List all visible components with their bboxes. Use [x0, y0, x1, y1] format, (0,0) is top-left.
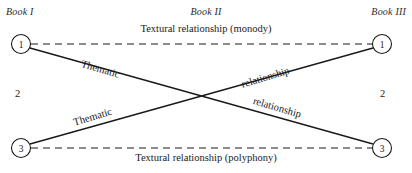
- side-number-right: 2: [380, 88, 385, 99]
- node-top-left-label: 1: [19, 40, 24, 50]
- side-number-left: 2: [15, 88, 20, 99]
- edge-label-textural-polyphony: Textural relationship (polyphony): [0, 152, 412, 163]
- node-top-left[interactable]: 1: [12, 35, 31, 54]
- column-header-book-3: Book III: [0, 6, 406, 17]
- node-top-right-label: 1: [380, 40, 385, 50]
- node-top-right[interactable]: 1: [373, 35, 392, 54]
- edge-label-textural-monody: Textural relationship (monody): [0, 23, 412, 34]
- diagram-canvas: 1 1 3 3 Book I Book II Book III Textural…: [0, 0, 412, 173]
